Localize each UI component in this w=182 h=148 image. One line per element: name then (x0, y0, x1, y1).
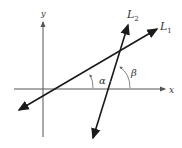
angle-alpha-arc (90, 75, 93, 88)
diagram-canvas: x y L1 L2 α β (0, 0, 182, 148)
y-axis-label: y (40, 9, 46, 18)
line-l1-label: L1 (159, 20, 172, 35)
angle-beta-arc (120, 67, 130, 88)
angle-alpha-label: α (99, 75, 106, 86)
x-axis-label: x (169, 85, 174, 95)
line-l2-label: L2 (126, 8, 139, 23)
angle-beta-label: β (130, 67, 137, 78)
